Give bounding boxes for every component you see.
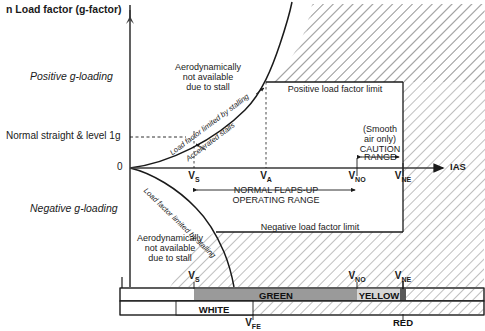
band-vfe-label-v: V (245, 317, 252, 328)
vne-axis-label: VNE (395, 170, 411, 183)
positive-g-loading-label: Positive g-loading (30, 70, 113, 82)
stall-note-upper-line3: due to stall (186, 82, 230, 92)
band-vfe-label-sub: FE (252, 323, 261, 330)
red-line-label: RED (393, 317, 413, 328)
band-vne-label: VNE (395, 270, 411, 283)
vno-axis-label: VNO (348, 170, 365, 183)
va-leader (256, 88, 264, 94)
x-axis-label: IAS (450, 161, 466, 172)
caution-air-only-label: air only) (364, 134, 396, 144)
band-vno-label-sub: NO (355, 276, 366, 283)
band-vne-label-sub: NE (401, 276, 411, 283)
diagram-canvas (0, 0, 485, 331)
caution-smooth-label: (Smooth (363, 124, 397, 134)
band-vne-label-v: V (395, 270, 402, 281)
operating-range-line2: OPERATING RANGE (233, 195, 320, 205)
white-arc-label: WHITE (199, 304, 230, 315)
band-vno-label: VNO (348, 270, 365, 283)
origin-label: 0 (117, 161, 123, 172)
caution-range-label: RANGE (364, 152, 396, 162)
asi-lower-hatch (253, 302, 484, 315)
vs-axis-label: VS (188, 170, 199, 183)
one-g-label: Normal straight & level 1g (6, 130, 121, 141)
band-vno-label-v: V (348, 270, 355, 281)
negative-load-factor-limit-label: Negative load factor limit (261, 222, 360, 232)
vs-axis-label-sub: S (195, 176, 200, 183)
vno-axis-label-v: V (348, 170, 355, 181)
vne-axis-label-v: V (395, 170, 402, 181)
band-vs-label: VS (188, 270, 199, 283)
positive-load-factor-limit-label: Positive load factor limit (288, 84, 383, 94)
stall-note-upper-line2: not available (183, 72, 234, 82)
page-title: n Load factor (g-factor) (6, 3, 122, 15)
asi-red-line (400, 289, 406, 301)
yellow-arc-label: YELLOW (359, 290, 400, 301)
negative-g-loading-label: Negative g-loading (30, 202, 118, 214)
vno-axis-label-sub: NO (355, 176, 366, 183)
asi-beyond-vne-hatch (406, 289, 484, 301)
stall-note-upper-line1: Aerodynamically (175, 62, 241, 72)
v-n-diagram-figure: n Load factor (g-factor) IAS 0 Normal st… (0, 0, 485, 331)
va-axis-label-v: V (260, 170, 267, 181)
band-vfe-label: VFE (245, 317, 261, 330)
green-arc-label: GREEN (259, 290, 293, 301)
vs-axis-label-v: V (188, 170, 195, 181)
operating-range-line1: NORMAL FLAPS-UP (234, 185, 319, 195)
band-vs-label-sub: S (195, 276, 200, 283)
band-vs-label-v: V (188, 270, 195, 281)
va-axis-label-sub: A (267, 176, 272, 183)
lower-hatched-region (170, 232, 484, 287)
stall-note-lower-line2: not available (145, 243, 196, 253)
va-axis-label: VA (260, 170, 272, 183)
vne-axis-label-sub: NE (401, 176, 411, 183)
stall-note-lower-line3: due to stall (148, 253, 192, 263)
